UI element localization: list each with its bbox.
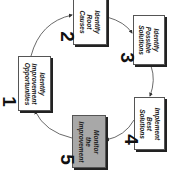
- step-2-label: Identify Root Causes: [79, 10, 102, 33]
- step-2-box: Identify Root Causes: [73, 0, 107, 45]
- arrow-3-to-4: [150, 66, 153, 96]
- step-1-box: Identify Improvement Opportunities: [18, 56, 51, 111]
- step-4-number: 4: [122, 134, 141, 145]
- step-2-number: 2: [58, 31, 77, 42]
- arrow-5-to-1: [35, 111, 72, 138]
- step-3-label: Identify Possible Solutions: [138, 25, 161, 55]
- step-3-box: Identify Possible Solutions: [133, 15, 165, 65]
- arrow-2-to-3: [107, 17, 132, 33]
- step-1-label: Identify Improvement Opportunities: [23, 62, 46, 105]
- step-5-label: Monitor the Improvement: [78, 121, 101, 162]
- step-1-number: 1: [0, 96, 19, 107]
- step-3-number: 3: [118, 52, 137, 63]
- step-5-number: 5: [58, 154, 77, 165]
